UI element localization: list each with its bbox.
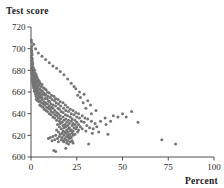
scatter-plot-svg: Test score 600620640660680700720 0255075…	[0, 0, 224, 188]
data-point	[76, 94, 79, 97]
data-point	[62, 111, 65, 114]
data-point	[62, 101, 65, 104]
data-point	[59, 70, 62, 73]
y-tick-label: 600	[12, 152, 26, 162]
y-tick-label: 640	[12, 109, 26, 119]
y-tick-label: 720	[12, 22, 26, 32]
data-point	[51, 135, 54, 138]
data-point	[64, 104, 67, 107]
data-point	[75, 115, 78, 118]
data-point	[30, 41, 33, 44]
data-point	[62, 73, 65, 76]
data-point	[72, 141, 75, 144]
data-point	[94, 109, 97, 112]
data-point	[94, 122, 97, 125]
data-point	[44, 58, 47, 61]
data-point	[84, 130, 87, 133]
data-point	[66, 106, 69, 109]
data-point	[86, 99, 89, 102]
y-tick-label: 660	[12, 87, 26, 97]
data-point	[112, 114, 115, 117]
data-point	[105, 123, 108, 126]
data-point	[56, 137, 59, 140]
data-point	[73, 85, 76, 88]
data-point	[81, 114, 84, 117]
data-point	[62, 107, 65, 110]
y-tick-label: 620	[12, 131, 26, 141]
x-tick-label: 25	[72, 162, 82, 172]
data-point	[48, 61, 51, 64]
data-point	[66, 78, 69, 81]
data-point	[90, 120, 93, 123]
data-point	[55, 119, 58, 122]
data-point	[84, 107, 87, 110]
scatter-chart-figure: Test score 600620640660680700720 0255075…	[0, 0, 224, 188]
data-point	[54, 150, 57, 153]
y-axis-ticks: 600620640660680700720	[12, 22, 31, 162]
data-point	[78, 91, 81, 94]
data-point	[76, 131, 79, 134]
data-point	[64, 109, 67, 112]
data-point	[95, 125, 98, 128]
data-point	[77, 112, 80, 115]
data-point	[90, 112, 93, 115]
data-point	[57, 98, 60, 101]
data-point	[67, 110, 70, 113]
data-point	[43, 94, 46, 97]
data-point	[92, 127, 95, 130]
data-point	[51, 139, 54, 142]
data-point	[88, 126, 91, 129]
data-point	[51, 65, 54, 68]
data-point	[109, 120, 112, 123]
data-point	[54, 105, 57, 108]
data-point	[116, 115, 119, 118]
data-point	[79, 96, 82, 99]
data-point	[130, 110, 133, 113]
data-point	[86, 118, 89, 121]
data-point	[70, 82, 73, 85]
data-point	[64, 147, 67, 150]
data-point	[99, 120, 102, 123]
data-point	[74, 127, 77, 130]
data-point	[48, 92, 51, 95]
data-point	[47, 137, 50, 140]
data-point	[59, 105, 62, 108]
data-point	[66, 114, 69, 117]
data-point	[137, 121, 140, 124]
y-tick-label: 680	[12, 66, 26, 76]
data-point	[91, 132, 94, 135]
x-axis-title: Percent	[185, 176, 219, 186]
data-point	[78, 117, 81, 120]
data-point	[57, 140, 60, 143]
data-point	[67, 143, 70, 146]
data-point	[81, 127, 84, 130]
x-tick-label: 75	[164, 162, 174, 172]
y-tick-label: 700	[12, 44, 26, 54]
data-point	[97, 131, 100, 134]
data-point	[83, 121, 86, 124]
data-point	[125, 115, 128, 118]
data-point	[62, 115, 65, 118]
data-point	[32, 43, 35, 46]
data-point	[82, 101, 85, 104]
data-point	[106, 133, 109, 136]
data-point	[57, 102, 60, 105]
data-point	[59, 122, 62, 125]
data-point	[40, 55, 43, 58]
data-point	[85, 124, 88, 127]
x-tick-label: 100	[207, 162, 221, 172]
data-point	[73, 113, 76, 116]
x-axis-ticks: 0255075100	[29, 157, 222, 172]
data-point	[104, 117, 107, 120]
data-point	[89, 104, 92, 107]
data-point	[72, 109, 75, 112]
data-point	[53, 138, 56, 141]
data-point	[54, 134, 57, 137]
data-points-layer	[30, 39, 177, 154]
data-point	[62, 140, 65, 143]
data-point	[83, 117, 86, 120]
data-point	[121, 112, 124, 115]
data-point	[55, 67, 58, 70]
y-axis-title: Test score	[6, 6, 49, 16]
x-tick-label: 50	[118, 162, 128, 172]
